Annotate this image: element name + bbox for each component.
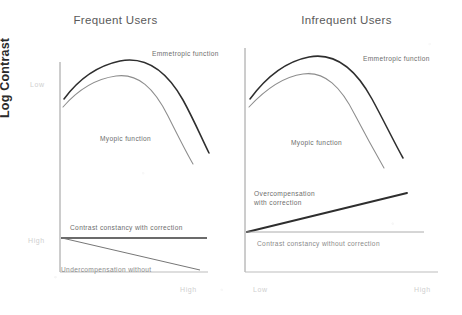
label-emmetropic-function: Emmetropic function [152,50,219,59]
figure-container: Frequent Users Log Contrast Low High Hig… [0,0,462,315]
label-contrast-constancy-without-correction: Contrast constancy without correction [257,240,380,249]
plot-infrequent-users [231,0,462,315]
label-undercompensation-without: Undercompensation without [61,266,152,275]
label-emmetropic-function: Emmetropic function [363,55,430,64]
curve-myopic-function [63,76,193,164]
label-overcompensation-line-2: with correction [254,199,302,208]
curve-myopic-function [249,74,384,168]
label-myopic-function: Myopic function [291,139,342,148]
label-overcompensation-line-1: Overcompensation [254,190,315,199]
label-myopic-function: Myopic function [100,135,151,144]
label-contrast-constancy-with-correction: Contrast constancy with correction [70,224,183,233]
panel-frequent-users: Frequent Users Log Contrast Low High Hig… [0,0,231,315]
panel-infrequent-users: Infrequent Users Low High Emmetropic fun… [231,0,462,315]
